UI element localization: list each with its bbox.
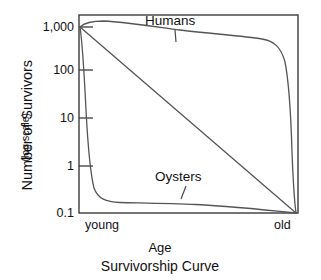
leader-line-humans: [175, 30, 176, 42]
x-tick-label-young: young: [85, 219, 119, 232]
y-tick-label-0-1: 0.1: [34, 207, 74, 220]
y-tick-label-1: 1: [44, 160, 74, 173]
leader-line-oysters: [181, 186, 186, 199]
annotation-humans: Humans: [145, 14, 195, 28]
annotation-oysters: Oysters: [155, 170, 202, 184]
curve-humans: [80, 21, 296, 213]
curve-diagonal-type2: [80, 27, 296, 213]
survivorship-curve-figure: Number of Survivors (log scale) 1,000 10…: [0, 0, 321, 280]
plot-canvas: [0, 0, 321, 280]
figure-title: Survivorship Curve: [80, 259, 240, 273]
x-tick-label-old: old: [274, 219, 291, 232]
y-axis-subtitle: (log scale): [20, 98, 31, 176]
y-tick-label-1000: 1,000: [26, 21, 74, 34]
y-tick-label-10: 10: [38, 112, 74, 125]
y-axis-ticks: [79, 27, 93, 166]
x-axis-title: Age: [110, 241, 210, 254]
y-tick-label-100: 100: [32, 64, 74, 77]
